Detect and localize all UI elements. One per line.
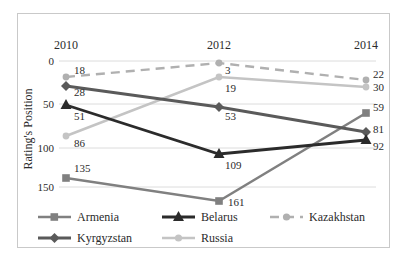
legend-label-russia: Russia	[201, 231, 234, 245]
legend-marker-armenia-square-icon	[51, 213, 59, 221]
x-tick-2010: 2010	[54, 38, 78, 52]
legend-marker-russia-circle-icon	[175, 234, 182, 241]
x-tick-2012: 2012	[207, 38, 231, 52]
y-tick-0: 0	[49, 55, 55, 67]
series-armenia-marker-2012	[215, 197, 223, 205]
y-tick-50: 50	[43, 98, 55, 110]
label-kazakhstan-2010: 18	[74, 64, 86, 76]
legend-label-kazakhstan: Kazakhstan	[309, 210, 365, 224]
series-kazakhstan	[63, 60, 370, 84]
legend-marker-kyrgyzstan-diamond-icon	[50, 233, 60, 243]
legend-item-kyrgyzstan[interactable]: Kyrgyzstan	[38, 231, 132, 245]
label-kyrgyzstan-2012: 53	[225, 110, 237, 122]
legend-item-belarus[interactable]: Belarus	[162, 210, 238, 224]
series-kazakhstan-marker-2012	[216, 60, 223, 67]
label-armenia-2010: 135	[74, 162, 91, 174]
y-axis-title: Rating's Position	[21, 88, 35, 169]
label-belarus-2010: 51	[74, 110, 85, 122]
x-tick-2014: 2014	[354, 38, 378, 52]
chart-svg: Rating's Position 0 50 100 150 2010 2012…	[18, 14, 391, 249]
legend-marker-kazakhstan-circle-icon	[283, 213, 290, 220]
label-russia-2010: 86	[74, 137, 86, 149]
label-armenia-2014: 59	[373, 101, 385, 113]
label-kyrgyzstan-2010: 28	[74, 86, 86, 98]
label-russia-2014: 30	[373, 81, 385, 93]
label-kyrgyzstan-2014: 81	[373, 123, 384, 135]
series-armenia-marker-2014	[362, 109, 370, 117]
label-armenia-2012: 161	[228, 196, 245, 208]
series-kazakhstan-marker-2010	[63, 74, 70, 81]
legend-item-kazakhstan[interactable]: Kazakhstan	[270, 210, 365, 224]
series-russia-marker-2014	[363, 84, 370, 91]
series-belarus-line	[66, 105, 366, 154]
series-russia-marker-2012	[216, 74, 223, 81]
y-tick-100: 100	[38, 142, 55, 154]
label-kazakhstan-2012: 3	[225, 64, 231, 76]
legend-item-russia[interactable]: Russia	[162, 231, 234, 245]
plot-area: Rating's Position 0 50 100 150 2010 2012…	[18, 14, 391, 249]
label-belarus-2012: 109	[225, 159, 242, 171]
label-belarus-2014: 92	[373, 140, 384, 152]
legend-item-armenia[interactable]: Armenia	[38, 210, 120, 224]
series-kazakhstan-marker-2014	[363, 77, 370, 84]
series-kyrgyzstan-marker-2010	[61, 81, 71, 91]
series-kyrgyzstan	[61, 81, 371, 137]
y-tick-150: 150	[38, 181, 55, 193]
chart-container: Rating's Position 0 50 100 150 2010 2012…	[17, 13, 390, 248]
legend-label-kyrgyzstan: Kyrgyzstan	[77, 231, 132, 245]
label-russia-2012: 19	[225, 82, 237, 94]
series-armenia-marker-2010	[62, 174, 70, 182]
legend-label-belarus: Belarus	[201, 210, 238, 224]
label-kazakhstan-2014: 22	[373, 68, 384, 80]
series-russia-marker-2010	[63, 133, 70, 140]
chart-legend: Armenia Belarus Kazakhstan	[38, 210, 365, 245]
legend-label-armenia: Armenia	[77, 210, 120, 224]
